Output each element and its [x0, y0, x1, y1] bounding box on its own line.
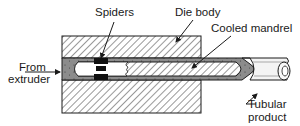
label-die-body: Die body: [175, 6, 220, 19]
label-product: product: [248, 111, 286, 124]
die-body-upper: [62, 36, 201, 58]
spiders: [94, 58, 108, 80]
label-spiders: Spiders: [95, 6, 134, 19]
label-extruder: extruder: [8, 73, 50, 86]
label-cooled-mandrel: Cooled mandrel: [211, 22, 292, 35]
label-tubular: Tubular: [248, 98, 287, 111]
die-body-lower: [62, 80, 201, 113]
